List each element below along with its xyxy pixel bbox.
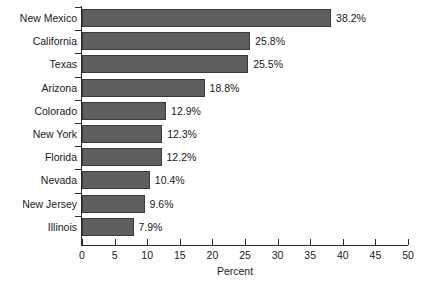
x-axis-tick-label: 35 (295, 249, 325, 261)
value-label: 12.2% (167, 152, 197, 163)
y-axis-tick (75, 169, 82, 170)
value-label: 7.9% (139, 222, 163, 233)
bar (82, 79, 205, 97)
value-label: 25.5% (253, 59, 283, 70)
y-axis-tick (75, 53, 82, 54)
bar (82, 32, 250, 50)
x-axis-tick (147, 239, 148, 245)
x-axis-tick (408, 239, 409, 245)
x-axis-tick (245, 239, 246, 245)
x-axis-title-text: Percent (217, 265, 253, 277)
x-axis-tick (343, 239, 344, 245)
bar (82, 125, 162, 143)
bar (82, 218, 134, 236)
y-axis-tick (75, 100, 82, 101)
bar-chart: New MexicoCaliforniaTexasArizonaColorado… (0, 0, 426, 287)
value-label: 10.4% (155, 175, 185, 186)
x-axis-tick-label: 45 (360, 249, 390, 261)
x-axis-tick-label: 15 (165, 249, 195, 261)
x-axis-line (81, 245, 408, 246)
x-axis-tick-label: 5 (100, 249, 130, 261)
category-label: Arizona (41, 83, 77, 94)
y-axis-tick (75, 216, 82, 217)
x-axis-tick (310, 239, 311, 245)
category-label: Texas (50, 59, 77, 70)
x-axis-tick (180, 239, 181, 245)
y-axis-tick (75, 146, 82, 147)
bar (82, 9, 331, 27)
category-label: Colorado (34, 106, 77, 117)
x-axis-tick (82, 239, 83, 245)
bar (82, 171, 150, 189)
x-axis-tick-label: 30 (263, 249, 293, 261)
x-axis-tick (115, 239, 116, 245)
bar (82, 55, 248, 73)
category-label: Florida (45, 152, 77, 163)
y-axis-tick (75, 7, 82, 8)
category-label: New York (33, 129, 77, 140)
category-label: New Jersey (22, 199, 77, 210)
bar (82, 195, 145, 213)
value-label: 38.2% (336, 13, 366, 24)
x-axis-tick (375, 239, 376, 245)
x-axis-title: Percent (0, 265, 426, 277)
category-label: Illinois (48, 222, 77, 233)
value-label: 18.8% (210, 83, 240, 94)
y-axis-tick (75, 77, 82, 78)
x-axis-tick-label: 20 (197, 249, 227, 261)
y-axis-tick (75, 123, 82, 124)
x-axis-tick (212, 239, 213, 245)
value-label: 12.3% (167, 129, 197, 140)
value-label: 12.9% (171, 106, 201, 117)
x-axis-tick-label: 40 (328, 249, 358, 261)
category-label: New Mexico (20, 13, 77, 24)
y-axis-tick (75, 193, 82, 194)
bar (82, 148, 162, 166)
x-axis-tick-label: 50 (393, 249, 423, 261)
bar (82, 102, 166, 120)
x-axis-tick-label: 25 (230, 249, 260, 261)
value-label: 9.6% (150, 199, 174, 210)
x-axis-tick-label: 10 (132, 249, 162, 261)
x-axis-tick-label: 0 (67, 249, 97, 261)
y-axis-tick (75, 30, 82, 31)
value-label: 25.8% (255, 36, 285, 47)
x-axis-tick (278, 239, 279, 245)
category-label: Nevada (41, 175, 77, 186)
category-label: California (33, 36, 77, 47)
